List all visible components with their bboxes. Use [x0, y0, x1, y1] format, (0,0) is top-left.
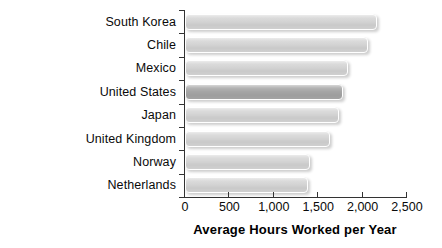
x-axis-tick-label: 0 — [182, 200, 189, 215]
y-axis-label-mexico: Mexico — [0, 61, 176, 75]
x-axis-tick-label: 1,000 — [258, 200, 289, 215]
bar-norway — [185, 154, 310, 170]
y-axis-tick — [179, 57, 185, 58]
x-axis-tick-label: 500 — [219, 200, 240, 215]
y-axis-label-united-states: United States — [0, 85, 176, 99]
bar-netherlands — [185, 177, 308, 193]
bar-united-kingdom — [185, 131, 330, 147]
x-axis-tick-label: 2,000 — [347, 200, 378, 215]
bar-chile — [185, 37, 368, 53]
y-axis-category-labels: South KoreaChileMexicoUnited StatesJapan… — [0, 10, 180, 196]
bar-japan — [185, 107, 339, 123]
x-axis-line — [184, 197, 406, 198]
y-axis-tick — [179, 127, 185, 128]
x-axis-tick-label: 1,500 — [303, 200, 334, 215]
x-axis-tick — [184, 192, 185, 198]
y-axis-tick — [179, 104, 185, 105]
y-axis-label-chile: Chile — [0, 38, 176, 52]
x-axis-tick — [317, 192, 318, 198]
y-axis-label-norway: Norway — [0, 155, 176, 169]
x-axis-tick — [228, 192, 229, 198]
y-axis-tick — [179, 10, 185, 11]
x-axis-tick-labels: 05001,0001,5002,0002,500 — [0, 200, 442, 218]
x-axis-tick — [362, 192, 363, 198]
y-axis-label-south-korea: South Korea — [0, 15, 176, 29]
bar-series — [185, 10, 435, 197]
y-axis-tick — [179, 150, 185, 151]
bar-united-states — [185, 84, 343, 100]
x-axis-tick-label: 2,500 — [391, 200, 422, 215]
y-axis-tick — [179, 33, 185, 34]
x-axis-title: Average Hours Worked per Year — [184, 222, 406, 237]
y-axis-tick — [179, 174, 185, 175]
x-axis-tick — [406, 192, 407, 198]
bar-chart: South KoreaChileMexicoUnited StatesJapan… — [0, 0, 442, 248]
x-axis-tick — [273, 192, 274, 198]
bar-mexico — [185, 60, 348, 76]
y-axis-label-japan: Japan — [0, 108, 176, 122]
y-axis-label-netherlands: Netherlands — [0, 178, 176, 192]
y-axis-label-united-kingdom: United Kingdom — [0, 132, 176, 146]
bar-south-korea — [185, 14, 377, 30]
y-axis-tick — [179, 80, 185, 81]
